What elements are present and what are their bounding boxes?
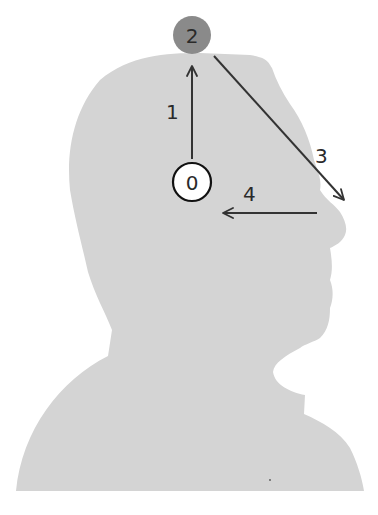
- node-0: 0: [173, 163, 211, 201]
- diagram-canvas: 1 3 4 2 0: [0, 0, 378, 515]
- head-silhouette: [16, 53, 364, 491]
- arrow-3-label: 3: [315, 144, 328, 168]
- node-0-label: 0: [186, 171, 199, 195]
- arrow-4-label: 4: [243, 182, 256, 206]
- head-movement-diagram: 1 3 4 2 0: [0, 0, 378, 515]
- arrow-1-label: 1: [166, 100, 179, 124]
- speck: [269, 479, 271, 481]
- node-2-label: 2: [186, 24, 199, 48]
- node-2: 2: [173, 16, 211, 54]
